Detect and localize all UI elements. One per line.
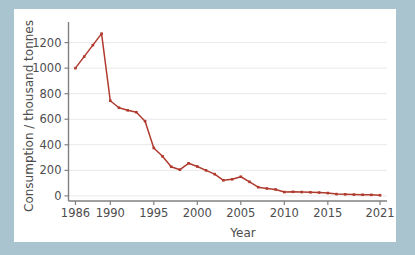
data-point-marker — [353, 193, 356, 196]
line-chart: 19861990199520002005201020152021 0200400… — [0, 0, 415, 255]
data-point-marker — [248, 181, 251, 184]
data-point-marker — [187, 162, 190, 165]
y-tick-label: 800 — [40, 87, 62, 101]
data-point-marker — [266, 187, 269, 190]
data-point-marker — [135, 111, 138, 114]
data-point-marker — [231, 178, 234, 181]
data-point-marker — [118, 106, 121, 109]
y-tick-label: 400 — [40, 138, 62, 152]
y-axis-title: Consumption / thousand tonnes — [22, 20, 36, 212]
y-axis-ticks: 020040060080010001200 — [32, 36, 68, 203]
data-point-marker — [257, 186, 260, 189]
data-point-marker — [240, 175, 243, 178]
axis-spines — [69, 22, 388, 201]
data-point-marker — [370, 194, 373, 197]
x-tick-label: 2000 — [183, 206, 212, 220]
x-axis-title: Year — [229, 226, 255, 240]
data-point-marker — [318, 191, 321, 194]
data-point-marker — [83, 55, 86, 58]
data-point-marker — [109, 99, 112, 102]
data-point-marker — [344, 193, 347, 196]
data-point-marker — [379, 194, 382, 197]
data-point-marker — [170, 165, 173, 168]
data-point-marker — [161, 155, 164, 158]
data-point-marker — [327, 192, 330, 195]
x-tick-label: 2010 — [270, 206, 299, 220]
data-point-marker — [292, 191, 295, 194]
grid-lines — [69, 43, 388, 196]
data-point-marker — [152, 147, 155, 150]
data-point-marker — [222, 179, 225, 182]
data-point-marker — [196, 165, 199, 168]
data-point-marker — [205, 169, 208, 172]
chart-figure: 19861990199520002005201020152021 0200400… — [0, 0, 415, 255]
data-point-marker — [300, 191, 303, 194]
x-tick-label: 1990 — [96, 206, 125, 220]
y-tick-label: 1200 — [32, 36, 61, 50]
x-axis-ticks: 19861990199520002005201020152021 — [61, 201, 395, 220]
data-point-marker — [144, 120, 147, 123]
y-tick-label: 1000 — [32, 61, 61, 75]
data-point-marker — [309, 191, 312, 194]
y-tick-label: 200 — [40, 163, 62, 177]
data-point-marker — [126, 109, 129, 112]
data-point-marker — [361, 193, 364, 196]
data-point-marker — [213, 173, 216, 176]
x-tick-label: 1986 — [61, 206, 90, 220]
x-tick-label: 2015 — [313, 206, 342, 220]
y-tick-label: 600 — [40, 112, 62, 126]
data-point-marker — [74, 67, 77, 70]
x-tick-label: 2021 — [365, 206, 394, 220]
data-point-marker — [335, 193, 338, 196]
data-point-marker — [92, 44, 95, 47]
x-tick-label: 1995 — [139, 206, 168, 220]
y-tick-label: 0 — [54, 189, 61, 203]
data-point-marker — [274, 188, 277, 191]
x-tick-label: 2005 — [226, 206, 255, 220]
data-point-marker — [100, 32, 103, 35]
data-series — [74, 32, 381, 196]
data-point-marker — [179, 168, 182, 171]
data-point-marker — [283, 191, 286, 194]
